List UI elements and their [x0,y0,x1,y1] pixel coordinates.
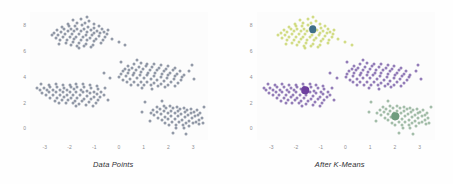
data-point [160,119,163,122]
data-point [124,67,127,70]
data-point [54,91,57,94]
data-point [177,115,180,118]
data-point [396,80,399,83]
data-point [321,101,324,104]
data-point [88,36,91,39]
data-point [96,98,99,101]
data-point [411,133,414,136]
data-point [169,80,172,83]
x-tick-label: 0 [344,145,347,150]
data-point [309,86,312,89]
data-point [58,102,61,105]
data-point [68,35,71,38]
data-point [71,32,74,35]
data-point [198,123,201,126]
data-point [377,87,380,90]
data-point [87,100,90,103]
data-point [280,99,283,102]
data-point [278,94,281,97]
data-point [129,84,132,87]
data-point [353,64,356,67]
data-point [330,36,333,39]
data-point [386,76,389,79]
data-point [57,33,60,36]
data-point [312,16,315,19]
data-point [160,82,163,85]
data-point [61,36,64,39]
data-point [386,113,389,116]
data-point [316,98,319,101]
data-point [58,42,61,45]
data-point [82,36,85,39]
data-point [351,75,354,78]
data-point [191,122,194,125]
data-point [72,19,75,22]
data-point [410,111,413,114]
data-point [119,61,122,64]
data-point [387,119,390,122]
data-point [77,47,80,50]
data-point [84,33,87,36]
data-point [122,78,125,81]
data-point [417,64,420,67]
data-point [170,115,173,118]
data-point [300,99,303,102]
data-point [183,111,186,114]
data-point [302,96,305,99]
data-point [188,69,191,72]
data-point [324,35,327,38]
data-point [77,32,80,35]
data-point [406,113,409,116]
x-tick-label: 1 [142,145,145,150]
data-point [308,36,311,39]
data-point [167,118,170,121]
data-point [356,84,359,87]
data-point [117,41,120,44]
data-point [88,20,91,23]
data-point [36,87,39,90]
data-point [282,96,285,99]
scatter-layer-data-points [30,12,208,140]
data-point [413,114,416,117]
data-point [400,84,403,87]
data-point [298,19,301,22]
data-point [314,100,317,103]
data-point [315,92,318,95]
data-point [152,109,155,112]
data-point [146,81,149,84]
data-point [188,125,191,128]
x-tick-label: 2 [167,145,170,150]
data-point [97,35,100,38]
data-point [160,113,163,116]
x-tick-label: 0 [118,145,121,150]
data-point [281,36,284,39]
data-point [124,43,127,46]
data-point [61,91,64,94]
data-point [296,44,299,47]
data-point [83,97,86,100]
data-point [362,59,365,62]
data-point [352,81,355,84]
data-point [378,109,381,112]
data-point [197,118,200,121]
data-point [367,86,370,89]
data-point [153,81,156,84]
data-point [346,61,349,64]
data-point [110,37,113,40]
data-point [163,115,166,118]
data-point [190,64,193,67]
data-point [359,80,362,83]
data-point [309,97,312,100]
data-point [56,28,59,31]
data-point [304,47,307,50]
data-point [387,100,390,103]
data-point [386,82,389,85]
data-point [165,107,168,110]
data-point [318,104,321,107]
data-point [271,94,274,97]
x-tick-label: -1 [319,145,323,150]
caption-data-points: Data Points [0,160,227,169]
data-point [145,74,148,77]
data-point [125,81,128,84]
data-point [181,118,184,121]
